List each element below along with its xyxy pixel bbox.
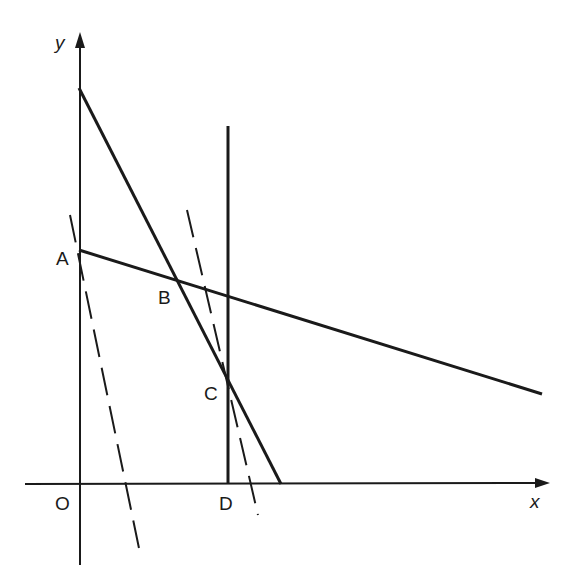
lp-diagram: y x O A B C D [0,0,577,584]
origin-label: O [55,493,70,514]
x-axis-arrow-icon [535,478,550,488]
objective-line-through-c [187,210,258,515]
x-axis [25,483,540,484]
point-d-label: D [219,493,233,514]
shallow-constraint-line [79,250,542,394]
point-c-label: C [204,383,218,404]
y-axis-arrow-icon [75,32,85,48]
point-b-label: B [158,287,171,308]
x-axis-label: x [529,491,541,512]
point-a-label: A [56,248,69,269]
y-axis-label: y [53,32,66,53]
steep-constraint-line [79,88,281,484]
